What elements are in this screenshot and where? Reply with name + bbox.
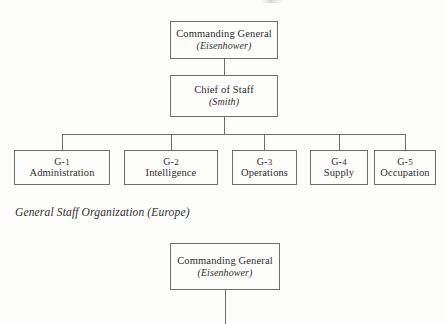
node-code: G-3: [257, 156, 273, 168]
connector-drop-g5: [405, 134, 406, 150]
node-g2-intelligence[interactable]: G-2 Intelligence: [124, 150, 218, 185]
node-title: Commanding General: [176, 28, 272, 40]
clipped-text-remnant: [262, 0, 284, 3]
chart-caption: General Staff Organization (Europe): [15, 206, 190, 218]
node-title: Commanding General: [177, 255, 273, 267]
node-subtitle: (Smith): [209, 96, 239, 108]
connector-cg-to-cos: [224, 59, 225, 75]
connector-drop-g3: [264, 134, 265, 150]
node-g1-administration[interactable]: G-1 Administration: [14, 150, 110, 185]
node-subtitle: (Eisenhower): [196, 40, 251, 52]
node-code: G-1: [54, 156, 70, 168]
connector-drop-g4: [339, 134, 340, 150]
node-function: Operations: [241, 167, 288, 179]
node-chief-of-staff[interactable]: Chief of Staff (Smith): [170, 75, 278, 117]
node-title: Chief of Staff: [194, 84, 254, 96]
node-subtitle: (Eisenhower): [197, 267, 252, 279]
node-function: Intelligence: [146, 167, 197, 179]
connector-staff-bus: [62, 134, 405, 135]
node-function: Administration: [30, 167, 95, 179]
scanned-page: Commanding General (Eisenhower) Chief of…: [0, 0, 446, 324]
node-commanding-general[interactable]: Commanding General (Eisenhower): [170, 21, 278, 59]
connector-cg2-stem: [225, 290, 226, 324]
node-function: Supply: [324, 167, 354, 179]
node-g3-operations[interactable]: G-3 Operations: [232, 150, 297, 185]
connector-drop-g2: [171, 134, 172, 150]
node-code: G-2: [163, 156, 179, 168]
node-g5-occupation[interactable]: G-5 Occupation: [374, 150, 436, 185]
node-code: G-5: [397, 156, 413, 168]
node-commanding-general-2[interactable]: Commanding General (Eisenhower): [170, 243, 280, 290]
connector-drop-g1: [62, 134, 63, 150]
node-function: Occupation: [380, 167, 429, 179]
node-g4-supply[interactable]: G-4 Supply: [310, 150, 368, 185]
node-code: G-4: [331, 156, 347, 168]
connector-cos-stem: [224, 117, 225, 134]
